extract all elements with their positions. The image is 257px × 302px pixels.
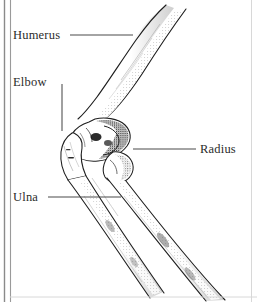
label-radius: Radius bbox=[200, 143, 236, 156]
figure-panel: Humerus Elbow Radius Ulna bbox=[0, 0, 257, 302]
label-elbow: Elbow bbox=[13, 76, 47, 89]
label-ulna: Ulna bbox=[13, 191, 38, 204]
label-humerus: Humerus bbox=[13, 29, 60, 42]
